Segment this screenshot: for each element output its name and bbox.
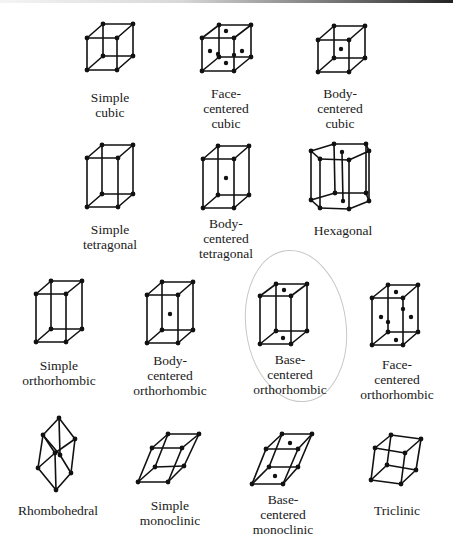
rhombohedral-lattice-icon [36, 416, 78, 493]
triclinic-label: Triclinic [374, 503, 420, 518]
body-centered-orthorhombic-lattice-icon [145, 280, 196, 346]
bravais-lattice-diagram [0, 0, 453, 541]
body-centered-tetragonal-lattice-icon [201, 144, 252, 211]
base-centered-monoclinic-lattice-icon [250, 432, 315, 487]
simple-orthorhombic-label: Simple orthorhombic [22, 358, 96, 388]
simple-tetragonal-lattice-icon [85, 143, 136, 210]
face-centered-cubic-lattice-icon [200, 23, 254, 74]
base-centered-orthorhombic-label: Base- centered orthorhombic [253, 352, 327, 397]
simple-cubic-label: Simple cubic [91, 90, 129, 120]
body-centered-cubic-lattice-icon [316, 24, 368, 75]
simple-monoclinic-lattice-icon [136, 432, 202, 485]
hexagonal-lattice-icon [309, 142, 372, 212]
triclinic-lattice-icon [369, 433, 424, 487]
base-centered-monoclinic-label: Base- centered monoclinic [253, 492, 314, 537]
hexagonal-label: Hexagonal [314, 223, 372, 238]
body-centered-tetragonal-label: Body- centered tetragonal [199, 216, 253, 261]
simple-monoclinic-label: Simple monoclinic [140, 498, 201, 528]
simple-tetragonal-label: Simple tetragonal [83, 222, 137, 252]
body-centered-cubic-label: Body- centered cubic [317, 86, 363, 131]
rhombohedral-label: Rhombohedral [18, 503, 98, 518]
base-centered-orthorhombic-lattice-icon [258, 282, 310, 347]
simple-orthorhombic-lattice-icon [34, 279, 85, 345]
face-centered-cubic-label: Face- centered cubic [203, 86, 249, 131]
simple-cubic-lattice-icon [85, 22, 136, 73]
face-centered-orthorhombic-lattice-icon [370, 283, 421, 348]
body-centered-orthorhombic-label: Body- centered orthorhombic [133, 353, 207, 398]
face-centered-orthorhombic-label: Face- centered orthorhombic [360, 357, 434, 402]
